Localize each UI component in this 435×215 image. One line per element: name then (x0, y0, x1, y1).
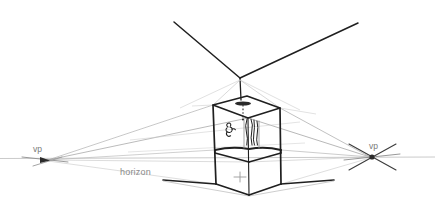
curtain-fold-3 (253, 120, 254, 145)
horizon-label: horizon (120, 167, 151, 177)
drawing-canvas: vp vp horizon (0, 0, 435, 215)
vp-left-label: vp (33, 144, 42, 154)
guide-left-to-mid-front (48, 160, 249, 162)
ray-up-left (174, 22, 240, 78)
vp-right-center-dot (369, 154, 374, 159)
guide-extension-lower (128, 143, 305, 152)
slab-top-edge (215, 148, 281, 150)
perspective-sketch (0, 0, 435, 215)
ceiling-light-icon (235, 101, 251, 105)
curtain-fold-4 (257, 121, 258, 145)
ray-up-right (240, 23, 358, 78)
box-edge-front (248, 118, 249, 195)
ray-down-vertical (240, 78, 241, 100)
box-edge-left (213, 105, 216, 184)
figure-head (227, 123, 231, 127)
vertical-vp-rays (174, 22, 358, 100)
box-top-face (213, 96, 280, 118)
box-edge-right (280, 108, 281, 184)
vp-right-label: vp (369, 141, 378, 151)
curtain-fold-1 (246, 119, 248, 145)
curtain-fold-2 (251, 119, 252, 145)
curtain-sketch (244, 119, 259, 148)
apex-ray-right (240, 80, 300, 110)
ground-line-right (281, 180, 334, 184)
apex-ray-left (180, 80, 240, 108)
box-top-polygon (213, 96, 280, 118)
front-face-cross-mark (234, 172, 246, 182)
guide-right-to-mid-right (281, 150, 370, 157)
